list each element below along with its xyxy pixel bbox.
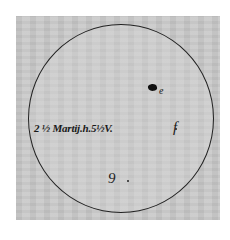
spot-label-f: f <box>173 119 177 136</box>
sunspot-g <box>127 180 129 182</box>
spot-label-g: 9 <box>108 170 116 187</box>
spot-label-e: e <box>159 85 163 96</box>
date-label: 2 ½ Martij.h.5½V. <box>34 122 113 134</box>
solar-disc <box>28 24 214 213</box>
